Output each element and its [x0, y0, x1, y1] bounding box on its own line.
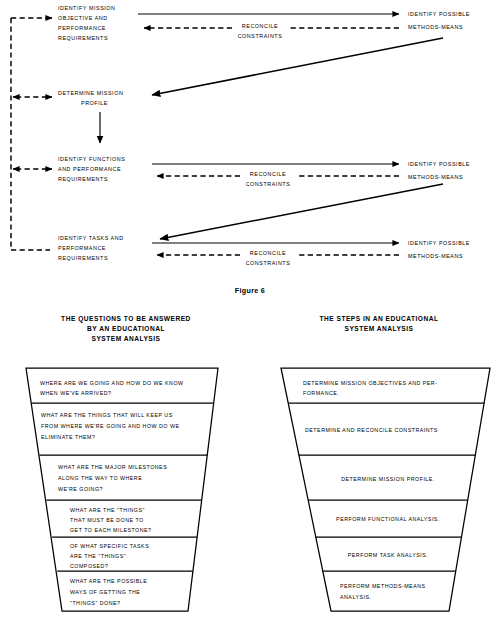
list-item: WHERE ARE WE GOING AND HOW DO WE KNOW WH… — [40, 380, 184, 396]
s-row-6-line-1: PERFORM METHODS-MEANS — [340, 583, 426, 589]
stage-2-line-2: PROFILE — [81, 100, 108, 106]
list-item: WHAT ARE THE MAJOR MILESTONES ALONG THE … — [58, 464, 167, 492]
stage-3-line-1: IDENTIFY FUNCTIONS — [58, 156, 125, 162]
methods-means-label-1: IDENTIFY POSSIBLE METHODS-MEANS — [408, 11, 470, 30]
list-item: WHAT ARE THE "THINGS" THAT MUST BE DONE … — [70, 507, 152, 533]
stage-4-line-1: IDENTIFY TASKS AND — [58, 235, 124, 241]
list-item: OF WHAT SPECIFIC TASKS ARE THE "THINGS" … — [70, 543, 149, 569]
q-row-2-line-2: FROM WHERE WE'RE GOING AND HOW DO WE — [41, 423, 179, 429]
q-row-4-line-1: WHAT ARE THE "THINGS" — [70, 507, 145, 513]
steps-funnel-shape — [281, 368, 490, 611]
stage-1-line-2: OBJECTIVE AND — [58, 15, 108, 21]
feedback-loop-dashed — [11, 18, 52, 250]
stage-1-label: IDENTIFY MISSION OBJECTIVE AND PERFORMAN… — [58, 5, 116, 41]
stage-2-label: DETERMINE MISSION PROFILE — [58, 90, 123, 106]
reconcile-2-line-2: CONSTRAINTS — [246, 181, 291, 187]
reconcile-label-3: RECONCILE CONSTRAINTS — [246, 250, 291, 266]
q-row-4-line-3: GET TO EACH MILESTONE? — [70, 527, 152, 533]
list-item: PERFORM TASK ANALYSIS. — [348, 552, 428, 558]
q-row-2-line-3: ELIMINATE THEM? — [41, 434, 95, 440]
q-row-3-line-2: ALONG THE WAY TO WHERE — [58, 475, 142, 481]
questions-header-line-1: THE QUESTIONS TO BE ANSWERED — [61, 315, 191, 323]
s-row-5-line-1: PERFORM TASK ANALYSIS. — [348, 552, 428, 558]
methods-means-label-3: IDENTIFY POSSIBLE METHODS-MEANS — [408, 240, 470, 259]
stage-2-line-1: DETERMINE MISSION — [58, 90, 123, 96]
list-item: WHAT ARE THE POSSIBLE WAYS OF GETTING TH… — [70, 578, 147, 606]
q-row-1-line-2: WHEN WE'VE ARRIVED? — [40, 390, 111, 396]
q-row-6-line-3: "THINGS" DONE? — [70, 600, 121, 606]
s-row-1-line-1: DETERMINE MISSION OBJECTIVES AND PER- — [303, 380, 437, 386]
s-row-1-line-2: FORMANCE. — [303, 390, 339, 396]
q-row-2-line-1: WHAT ARE THE THINGS THAT WILL KEEP US — [41, 412, 173, 418]
q-row-6-line-2: WAYS OF GETTING THE — [70, 589, 140, 595]
reconcile-3-line-2: CONSTRAINTS — [246, 260, 291, 266]
reconcile-2-line-1: RECONCILE — [250, 171, 286, 177]
steps-header-line-2: SYSTEM ANALYSIS — [345, 325, 414, 332]
s-row-3-line-1: DETERMINE MISSION PROFILE. — [341, 476, 435, 482]
s-row-4-line-1: PERFORM FUNCTIONAL ANALYSIS. — [336, 516, 440, 522]
list-item: WHAT ARE THE THINGS THAT WILL KEEP US FR… — [41, 412, 179, 440]
list-item: DETERMINE MISSION PROFILE. — [341, 476, 435, 482]
questions-funnel-shape — [26, 368, 218, 611]
steps-funnel-rows: DETERMINE MISSION OBJECTIVES AND PER- FO… — [303, 380, 440, 600]
stage-1-line-4: REQUIREMENTS — [58, 35, 108, 41]
stage-4-line-2: PERFORMANCE — [58, 245, 106, 251]
questions-header-line-2: BY AN EDUCATIONAL — [87, 325, 165, 332]
reconcile-1-line-2: CONSTRAINTS — [238, 33, 283, 39]
list-item: DETERMINE MISSION OBJECTIVES AND PER- FO… — [303, 380, 437, 396]
stage-4-line-3: REQUIREMENTS — [58, 255, 108, 261]
questions-funnel-outline — [26, 368, 218, 611]
stage-3-label: IDENTIFY FUNCTIONS AND PERFORMANCE REQUI… — [58, 156, 125, 182]
list-item: DETERMINE AND RECONCILE CONSTRAINTS — [305, 427, 438, 433]
questions-funnel-rows: WHERE ARE WE GOING AND HOW DO WE KNOW WH… — [40, 380, 184, 606]
q-row-5-line-2: ARE THE "THINGS" — [70, 553, 126, 559]
q-row-4-line-2: THAT MUST BE DONE TO — [70, 517, 144, 523]
questions-funnel-header: THE QUESTIONS TO BE ANSWERED BY AN EDUCA… — [61, 315, 191, 342]
stage-1-line-1: IDENTIFY MISSION — [58, 5, 116, 11]
s-row-6-line-2: ANALYSIS. — [340, 594, 372, 600]
stage-4-label: IDENTIFY TASKS AND PERFORMANCE REQUIREME… — [58, 235, 124, 261]
diagonal-arrow-1 — [152, 38, 443, 95]
questions-header-line-3: SYSTEM ANALYSIS — [92, 335, 161, 342]
q-row-5-line-1: OF WHAT SPECIFIC TASKS — [70, 543, 149, 549]
methods-1-line-1: IDENTIFY POSSIBLE — [408, 11, 470, 17]
q-row-6-line-1: WHAT ARE THE POSSIBLE — [70, 578, 147, 584]
steps-header-line-1: THE STEPS IN AN EDUCATIONAL — [319, 315, 438, 322]
reconcile-3-line-1: RECONCILE — [250, 250, 286, 256]
list-item: PERFORM FUNCTIONAL ANALYSIS. — [336, 516, 440, 522]
reconcile-label-2: RECONCILE CONSTRAINTS — [246, 171, 291, 187]
methods-1-line-2: METHODS-MEANS — [408, 24, 463, 30]
diagonal-arrow-2 — [160, 184, 443, 239]
figure-caption: Figure 6 — [235, 286, 265, 295]
stage-3-line-3: REQUIREMENTS — [58, 176, 108, 182]
stage-3-line-2: AND PERFORMANCE — [58, 166, 121, 172]
reconcile-1-line-1: RECONCILE — [242, 23, 278, 29]
figure-page: IDENTIFY MISSION OBJECTIVE AND PERFORMAN… — [0, 0, 501, 626]
s-row-2-line-1: DETERMINE AND RECONCILE CONSTRAINTS — [305, 427, 438, 433]
methods-means-label-2: IDENTIFY POSSIBLE METHODS-MEANS — [408, 161, 470, 180]
reconcile-label-1: RECONCILE CONSTRAINTS — [238, 23, 283, 39]
methods-3-line-1: IDENTIFY POSSIBLE — [408, 240, 470, 246]
methods-2-line-2: METHODS-MEANS — [408, 174, 463, 180]
q-row-5-line-3: COMPOSED? — [70, 563, 108, 569]
methods-3-line-2: METHODS-MEANS — [408, 253, 463, 259]
q-row-1-line-1: WHERE ARE WE GOING AND HOW DO WE KNOW — [40, 380, 184, 386]
steps-funnel-header: THE STEPS IN AN EDUCATIONAL SYSTEM ANALY… — [319, 315, 438, 332]
steps-funnel-outline — [281, 368, 490, 611]
stage-1-line-3: PERFORMANCE — [58, 25, 106, 31]
q-row-3-line-3: WE'RE GOING? — [58, 486, 103, 492]
flow-diagram: IDENTIFY MISSION OBJECTIVE AND PERFORMAN… — [0, 0, 501, 626]
methods-2-line-1: IDENTIFY POSSIBLE — [408, 161, 470, 167]
list-item: PERFORM METHODS-MEANS ANALYSIS. — [340, 583, 426, 600]
q-row-3-line-1: WHAT ARE THE MAJOR MILESTONES — [58, 464, 167, 470]
